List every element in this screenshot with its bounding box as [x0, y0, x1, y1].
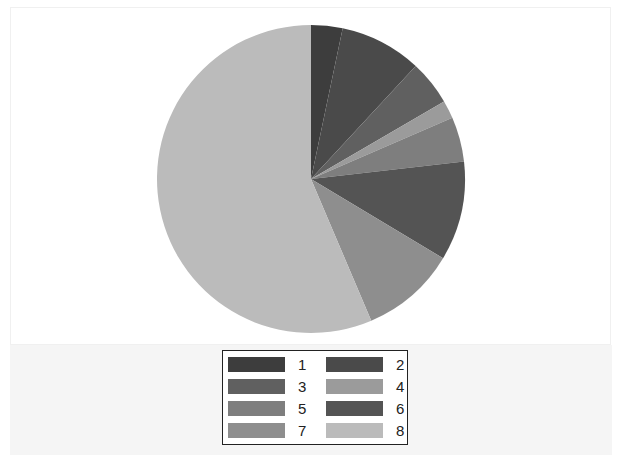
legend-item-8: 8: [326, 423, 404, 438]
legend-label-5: 5: [298, 401, 306, 416]
legend-label-6: 6: [396, 401, 404, 416]
legend: 1 2 3 4 5 6 7 8: [222, 350, 408, 445]
legend-item-3: 3: [228, 379, 306, 394]
legend-swatch-7: [228, 423, 285, 438]
legend-swatch-4: [326, 379, 383, 394]
legend-item-7: 7: [228, 423, 306, 438]
legend-swatch-1: [228, 357, 285, 372]
legend-swatch-2: [326, 357, 383, 372]
legend-label-1: 1: [298, 357, 306, 372]
legend-swatch-8: [326, 423, 383, 438]
legend-item-5: 5: [228, 401, 306, 416]
legend-label-3: 3: [298, 379, 306, 394]
legend-swatch-5: [228, 401, 285, 416]
legend-item-6: 6: [326, 401, 404, 416]
pie-slices: [157, 25, 465, 333]
legend-label-8: 8: [396, 423, 404, 438]
legend-swatch-3: [228, 379, 285, 394]
legend-item-4: 4: [326, 379, 404, 394]
legend-item-2: 2: [326, 357, 404, 372]
legend-label-7: 7: [298, 423, 306, 438]
legend-swatch-6: [326, 401, 383, 416]
legend-label-4: 4: [396, 379, 404, 394]
legend-item-1: 1: [228, 357, 306, 372]
legend-label-2: 2: [396, 357, 404, 372]
